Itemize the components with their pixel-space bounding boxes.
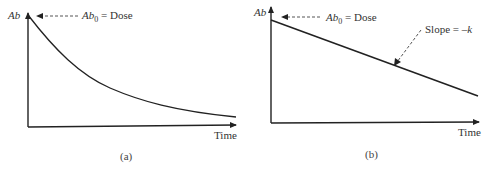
panel-b: Ab Ab0 = Dose Slope = –k Time (b) <box>253 6 481 161</box>
dose-label-b: Ab0 = Dose <box>325 11 377 26</box>
arrowhead-icon <box>394 58 401 66</box>
dose-label-a: Ab0 = Dose <box>81 9 133 24</box>
x-axis-b <box>271 122 479 123</box>
x-label-a: Time <box>214 129 237 141</box>
slope-arrow-b <box>397 30 421 62</box>
figure: Ab Ab0 = Dose Time (a) Ab Ab0 = Dose Slo… <box>0 0 483 170</box>
arrowhead-icon <box>36 13 43 19</box>
x-label-b: Time <box>458 126 481 138</box>
slope-label-b: Slope = –k <box>425 23 473 35</box>
y-label-b: Ab <box>253 6 267 18</box>
caption-b: (b) <box>365 148 378 161</box>
panel-a: Ab Ab0 = Dose Time (a) <box>7 9 237 163</box>
y-label-a: Ab <box>7 9 21 21</box>
caption-a: (a) <box>120 150 133 163</box>
x-axis-a <box>28 125 236 127</box>
arrowhead-icon <box>281 14 288 20</box>
decay-curve-a <box>28 15 236 117</box>
